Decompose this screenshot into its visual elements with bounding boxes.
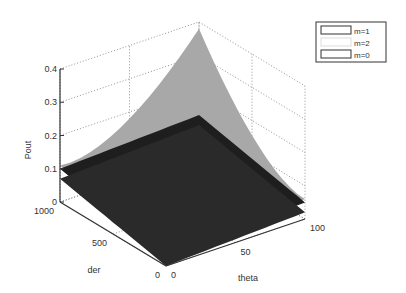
x-tick-label: 50	[241, 247, 251, 257]
z-axis-label: Pout	[23, 140, 33, 159]
legend-label: m=1	[354, 27, 370, 36]
x-tick-label: 100	[310, 223, 325, 233]
z-tick-label: 0.4	[44, 64, 57, 74]
legend: m=1m=2m=0	[316, 22, 386, 62]
legend-label: m=2	[354, 39, 370, 48]
x-tick-label: 0	[171, 270, 176, 280]
surfaces	[60, 29, 305, 266]
y-tick-label: 0	[155, 270, 160, 280]
legend-swatch	[321, 38, 351, 46]
y-tick-label: 500	[92, 238, 107, 248]
y-tick-label: 1000	[34, 206, 54, 216]
y-axis-label: der	[87, 265, 100, 275]
legend-label: m=0	[354, 51, 370, 60]
legend-swatch	[321, 50, 351, 58]
legend-swatch	[321, 26, 351, 34]
z-tick-label: 0.2	[44, 131, 57, 141]
z-tick-label: 0.3	[44, 97, 57, 107]
surface-plot: 00.10.20.30.405010005001000 theta der Po…	[0, 0, 406, 293]
x-axis-label: theta	[238, 273, 258, 283]
z-tick-label: 0.1	[44, 164, 57, 174]
